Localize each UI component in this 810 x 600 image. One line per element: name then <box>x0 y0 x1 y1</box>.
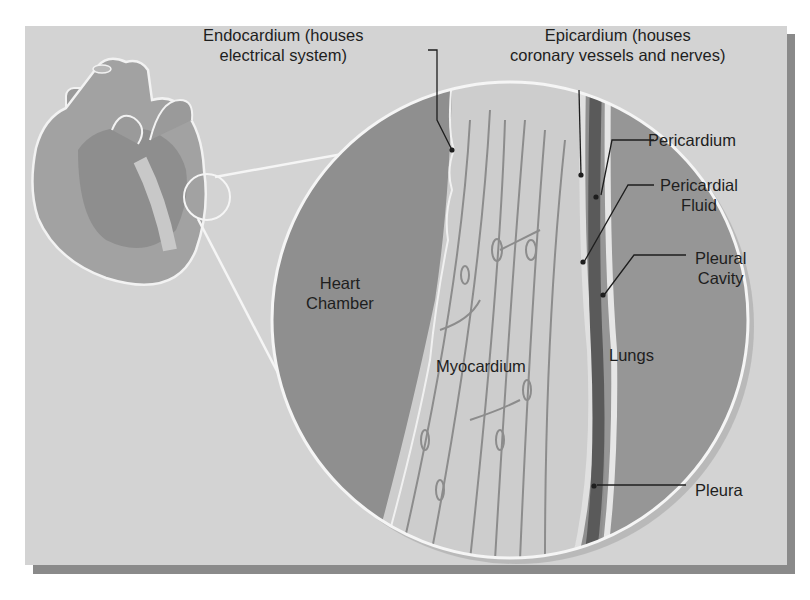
label-pericardium: Pericardium <box>648 130 736 150</box>
label-myocardium: Myocardium <box>436 356 526 376</box>
heart-icon <box>32 59 205 285</box>
label-pleural-cavity-line2: Cavity <box>695 268 746 288</box>
label-heart-chamber: Heart Chamber <box>306 273 374 313</box>
label-pleural-cavity-line1: Pleural <box>695 248 746 268</box>
heart-wall-illustration <box>0 0 810 600</box>
label-endocardium-line1: Endocardium (houses <box>203 25 364 45</box>
label-pericardial-fluid-line1: Pericardial <box>660 175 738 195</box>
label-pericardial-fluid: Pericardial Fluid <box>660 175 738 215</box>
label-epicardium-line1: Epicardium (houses <box>510 25 726 45</box>
label-pleural-cavity: Pleural Cavity <box>695 248 746 288</box>
label-heart-chamber-line2: Chamber <box>306 293 374 313</box>
label-endocardium-line2: electrical system) <box>203 45 364 65</box>
label-pericardial-fluid-line2: Fluid <box>660 195 738 215</box>
label-epicardium-line2: coronary vessels and nerves) <box>510 45 726 65</box>
label-endocardium: Endocardium (houses electrical system) <box>203 25 364 65</box>
label-pleura: Pleura <box>695 480 743 500</box>
label-heart-chamber-line1: Heart <box>306 273 374 293</box>
label-lungs: Lungs <box>609 345 654 365</box>
label-epicardium: Epicardium (houses coronary vessels and … <box>510 25 726 65</box>
